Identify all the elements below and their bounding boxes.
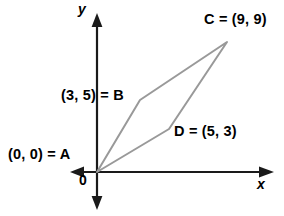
y-axis: [92, 13, 103, 210]
point-label-a: (0, 0) = A: [8, 147, 70, 162]
y-axis-label: y: [78, 2, 86, 16]
point-label-c: C = (9, 9): [204, 12, 267, 27]
origin-label: 0: [79, 173, 87, 187]
x-axis: [70, 167, 274, 178]
y-axis-down-arrowhead: [92, 196, 103, 210]
point-label-d: D = (5, 3): [174, 124, 237, 139]
x-axis-label: x: [257, 177, 265, 191]
point-label-b: (3, 5) = B: [61, 88, 124, 103]
coordinate-geometry-figure: C = (9, 9) (3, 5) = B (0, 0) = A D = (5,…: [0, 0, 284, 216]
figure-canvas: [0, 0, 284, 216]
y-axis-up-arrowhead: [92, 13, 103, 27]
parallelogram-abcd: [97, 42, 227, 172]
